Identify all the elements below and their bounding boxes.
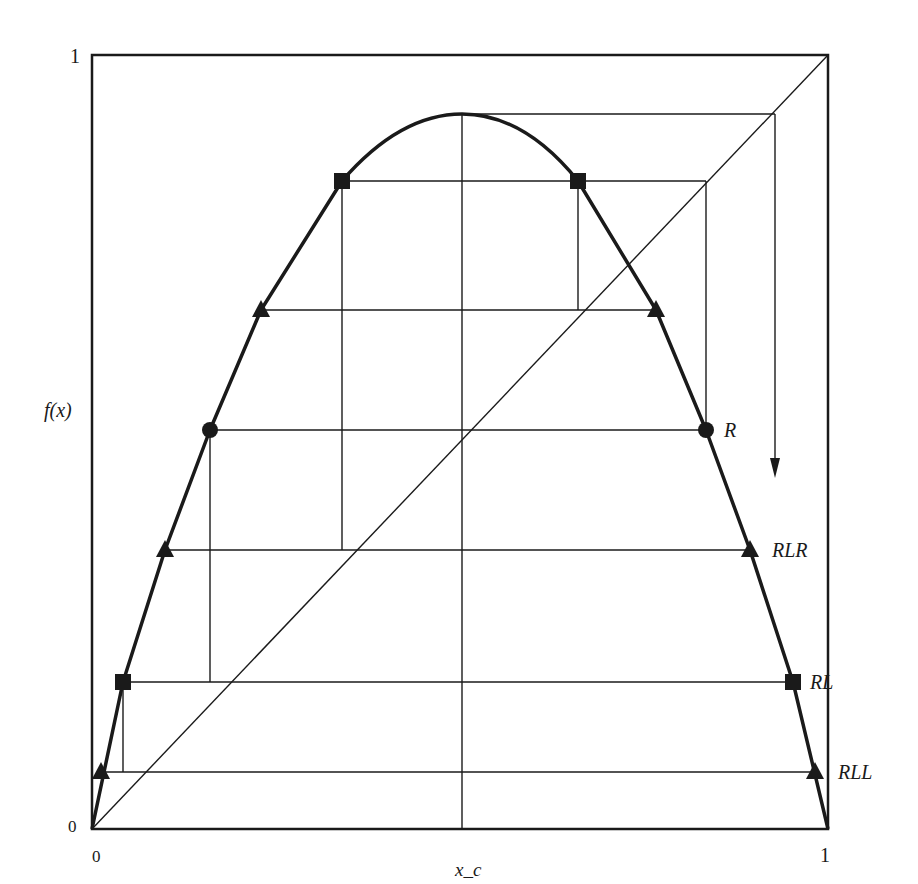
label-RLL: RLL [837, 761, 872, 783]
triangle-marker [156, 540, 174, 557]
map-curve [92, 114, 828, 829]
y-top-tick: 1 [70, 45, 80, 67]
cobweb-lines [101, 114, 815, 772]
label-RLR: RLR [771, 539, 808, 561]
label-R: R [723, 419, 736, 441]
circle-marker [698, 422, 714, 438]
square-marker [785, 674, 801, 690]
diagonal-line [92, 55, 828, 829]
label-RL: RL [809, 671, 833, 693]
triangle-marker [741, 540, 759, 557]
x-left-tick: 0 [92, 847, 101, 866]
arrow-down-icon [770, 458, 780, 478]
orbit-arrow [770, 114, 780, 478]
x-axis-label: x_c [454, 859, 482, 880]
y-axis-label: f(x) [44, 399, 72, 422]
circle-marker [202, 422, 218, 438]
triangle-marker [806, 762, 824, 779]
y-bottom-tick: 0 [68, 817, 77, 836]
orbit-markers [92, 173, 824, 779]
square-marker [570, 173, 586, 189]
x-right-tick: 1 [820, 844, 830, 866]
square-marker [115, 674, 131, 690]
unimodal-map-diagram: 1 0 0 1 f(x) x_c R RLR RL RLL [0, 0, 918, 884]
square-marker [334, 173, 350, 189]
